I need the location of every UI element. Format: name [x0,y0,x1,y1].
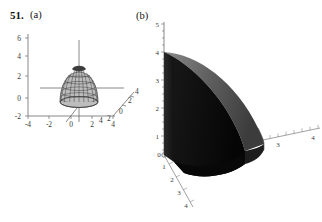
problem-number: 51. [10,10,24,21]
panel-b-solid-region [164,52,264,176]
panel-a-xtick-neg4: -4 [25,120,31,129]
panel-a-ytick-neg2: -2 [15,112,21,121]
panel-b-ytick-3: 3 [156,77,160,85]
panel-b-svg: 5 4 3 2 1 3 4 [150,10,322,222]
panel-a-ztick-0: 0 [119,107,123,116]
panel-a-label: (a) [30,10,42,21]
panel-a-ytick-6: 6 [17,34,21,43]
panel-b-vertical-ticks [161,24,164,150]
panel-b-front-tick-2: 2 [170,176,174,184]
panel-b-front-tick-4: 4 [184,202,188,210]
panel-a-ztick-extra-4: 4 [99,116,103,125]
panel-b-ytick-5: 5 [156,21,160,29]
panel-a-ytick-0: 0 [17,94,21,103]
panel-a-paraboloid-surface [60,65,98,108]
figure-canvas: 51. (a) (b) 6 4 2 0 -2 [0,0,322,222]
panel-b-right-tick-4: 4 [311,134,315,142]
panel-a-ztick-extra-2: 2 [107,114,111,123]
panel-b-front-tick-0: 0 [157,151,161,159]
panel-a-svg: 6 4 2 0 -2 -4 -2 0 2 4 [0,22,158,142]
panel-b-ytick-1: 1 [156,133,160,141]
panel-a-vertical-ticks [25,38,28,116]
panel-a-xtick-2: 2 [90,120,94,129]
panel-b-ytick-2: 2 [156,105,160,113]
panel-a-plot: 6 4 2 0 -2 -4 -2 0 2 4 [0,22,158,142]
panel-a-ytick-2: 2 [17,72,21,81]
panel-a-ytick-4: 4 [17,52,21,61]
panel-a-xtick-4: 4 [111,120,115,129]
panel-b-plot: 5 4 3 2 1 3 4 [150,10,322,222]
panel-b-ytick-4: 4 [156,49,160,57]
panel-b-label: (b) [136,11,148,22]
panel-b-front-tick-1: 1 [162,163,166,171]
panel-a-ztick-2: 2 [128,96,132,105]
panel-a-xtick-0: 0 [69,120,73,129]
panel-a-xtick-neg2: -2 [46,120,52,129]
panel-b-front-tick-3: 3 [177,189,181,197]
panel-b-right-tick-3: 3 [276,141,280,149]
panel-a-ztick-4: 4 [135,87,139,96]
